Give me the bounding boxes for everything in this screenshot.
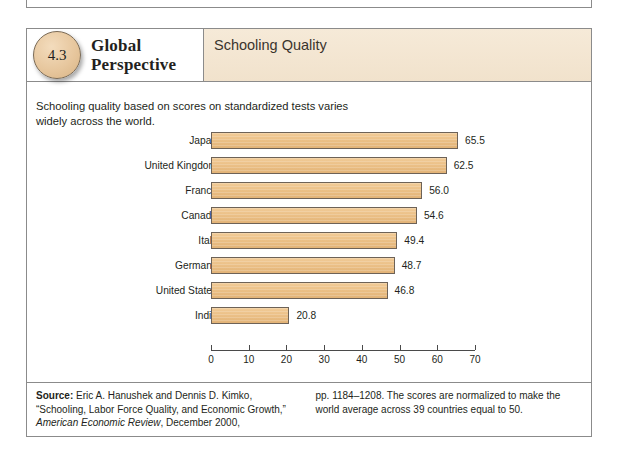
figure-number-badge: 4.3 — [33, 31, 81, 79]
bar-fill — [211, 232, 397, 249]
bar-value-label: 62.5 — [454, 160, 474, 171]
bar-category-label: Japan — [67, 135, 217, 146]
figure-series-title-line1: Global — [91, 36, 176, 55]
bar-category-label: United Kingdom — [67, 160, 217, 171]
axis-tick — [362, 345, 363, 350]
bar-value-label: 56.0 — [429, 185, 449, 196]
source-pages-note-line2: world average across 39 countries equal … — [316, 404, 523, 415]
footnote-left-column: Source: Eric A. Hanushek and Dennis D. K… — [36, 389, 302, 438]
bar-row: Italy49.4 — [27, 230, 591, 255]
axis-tick-label: 0 — [208, 354, 214, 365]
bar-row: United States46.8 — [27, 280, 591, 305]
bar-row: India20.8 — [27, 305, 591, 330]
bar-row: Japan65.5 — [27, 130, 591, 155]
figure-body: Schooling quality based on scores on sta… — [27, 82, 591, 438]
bar-track: 49.4 — [211, 232, 583, 249]
source-label: Source: — [36, 390, 73, 401]
bar-category-label: United States — [67, 285, 217, 296]
bar-fill — [211, 207, 417, 224]
axis-tick-label: 70 — [469, 354, 480, 365]
source-authors: Eric A. Hanushek and Dennis D. Kimko, — [73, 390, 252, 401]
bar-track: 20.8 — [211, 307, 583, 324]
axis-tick — [437, 345, 438, 350]
axis-tick-label: 30 — [319, 354, 330, 365]
figure-series-title-line2: Perspective — [91, 55, 176, 74]
axis-tick-label: 60 — [432, 354, 443, 365]
page-frame-sliver — [26, 0, 592, 8]
bar-category-label: Canada — [67, 210, 217, 221]
bar-row: United Kingdom62.5 — [27, 155, 591, 180]
axis-tick-label: 40 — [356, 354, 367, 365]
chart-x-axis: 010203040506070 — [211, 350, 475, 378]
figure-header: 4.3 Global Perspective Schooling Quality — [27, 29, 591, 82]
figure-container: 4.3 Global Perspective Schooling Quality… — [26, 28, 592, 437]
bar-track: 54.6 — [211, 207, 583, 224]
figure-header-left: 4.3 Global Perspective — [27, 29, 204, 81]
axis-tick-label: 20 — [281, 354, 292, 365]
bar-fill — [211, 282, 388, 299]
axis-tick — [400, 345, 401, 350]
bar-row: France56.0 — [27, 180, 591, 205]
axis-tick — [249, 345, 250, 350]
axis-tick — [211, 345, 212, 350]
figure-intro-text: Schooling quality based on scores on sta… — [36, 99, 366, 129]
bar-fill — [211, 307, 289, 324]
figure-footnote: Source: Eric A. Hanushek and Dennis D. K… — [27, 382, 591, 438]
bar-value-label: 49.4 — [404, 235, 424, 246]
bar-value-label: 65.5 — [465, 135, 485, 146]
axis-tick — [286, 345, 287, 350]
bar-category-label: France — [67, 185, 217, 196]
bar-value-label: 54.6 — [424, 210, 444, 221]
source-article-title: “Schooling, Labor Force Quality, and Eco… — [36, 404, 286, 415]
bar-fill — [211, 132, 458, 149]
figure-number-text: 4.3 — [48, 47, 67, 64]
axis-tick-label: 10 — [243, 354, 254, 365]
bar-track: 48.7 — [211, 257, 583, 274]
bar-category-label: Germany — [67, 260, 217, 271]
axis-tick — [475, 345, 476, 350]
bar-category-label: India — [67, 310, 217, 321]
bar-fill — [211, 157, 447, 174]
bar-row: Canada54.6 — [27, 205, 591, 230]
figure-header-right: Schooling Quality — [204, 29, 591, 81]
source-journal: American Economic Review — [36, 417, 161, 428]
bar-fill — [211, 257, 395, 274]
bar-row: Germany48.7 — [27, 255, 591, 280]
footnote-right-column: pp. 1184–1208. The scores are normalized… — [316, 389, 582, 438]
source-date: , December 2000, — [161, 417, 241, 428]
figure-series-title: Global Perspective — [91, 36, 176, 74]
bar-track: 62.5 — [211, 157, 583, 174]
figure-subject-title: Schooling Quality — [214, 37, 591, 53]
axis-tick-label: 50 — [394, 354, 405, 365]
axis-line — [211, 350, 475, 351]
bar-value-label: 46.8 — [395, 285, 415, 296]
bar-fill — [211, 182, 422, 199]
bar-track: 65.5 — [211, 132, 583, 149]
bar-category-label: Italy — [67, 235, 217, 246]
axis-tick — [324, 345, 325, 350]
source-pages-note-line1: pp. 1184–1208. The scores are normalized… — [316, 390, 561, 401]
bar-track: 56.0 — [211, 182, 583, 199]
bar-track: 46.8 — [211, 282, 583, 299]
bar-value-label: 48.7 — [402, 260, 422, 271]
bar-value-label: 20.8 — [296, 310, 316, 321]
